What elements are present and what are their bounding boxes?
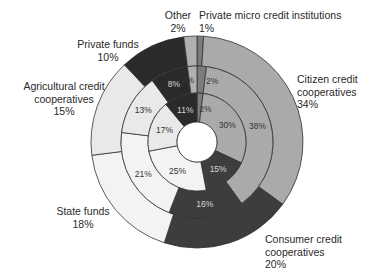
label-consumer: Consumer credit cooperatives 20% [265,233,342,271]
ring-label-middle-3: 21% [135,169,152,179]
ring-label-inner-0: 2% [199,104,212,114]
label-agri: Agricultural credit cooperatives 15% [14,80,114,118]
ring-label-middle-4: 13% [135,105,152,115]
label-other: Other 2% [160,9,196,34]
ring-label-inner-4: 17% [156,125,173,135]
ring-label-inner-5: 11% [177,105,194,115]
ring-label-inner-2: 15% [210,164,227,174]
label-other-value: 2% [160,22,196,35]
ring-label-middle-2: 16% [196,199,213,209]
ring-label-middle-6: 2% [182,75,195,85]
label-consumer-line1: Consumer credit [265,233,342,246]
label-citizen: Citizen credit cooperatives 34% [297,73,358,111]
label-private-funds-value: 10% [72,51,144,64]
label-micro: Private micro credit institutions 1% [199,9,341,34]
label-consumer-line2: cooperatives [265,246,342,259]
label-consumer-value: 20% [265,258,342,271]
label-micro-value: 1% [199,22,341,35]
label-other-name: Other [160,9,196,22]
label-state-value: 18% [50,218,116,231]
label-citizen-line2: cooperatives [297,86,358,99]
ring-label-inner-3: 25% [169,166,186,176]
label-agri-value: 15% [14,105,114,118]
label-agri-line2: cooperatives [14,93,114,106]
ring-label-middle-1: 38% [249,121,266,131]
label-citizen-value: 34% [297,98,358,111]
label-state: State funds 18% [50,205,116,230]
label-private-funds: Private funds 10% [72,38,144,63]
ring-label-middle-0: 2% [206,76,219,86]
label-private-funds-name: Private funds [72,38,144,51]
ring-label-inner-1: 30% [219,120,236,130]
label-micro-name: Private micro credit institutions [199,9,341,22]
label-citizen-line1: Citizen credit [297,73,358,86]
center-hole [177,122,217,162]
label-state-name: State funds [50,205,116,218]
ring-label-middle-5: 8% [168,79,181,89]
label-agri-line1: Agricultural credit [14,80,114,93]
